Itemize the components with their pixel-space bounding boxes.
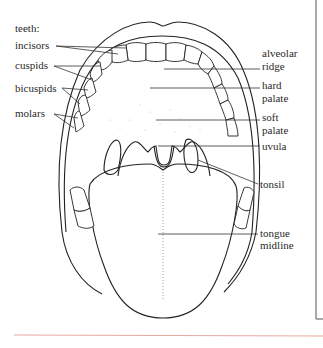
label-molars: molars <box>15 107 45 119</box>
label-hard-palate-line1: hard <box>262 79 282 91</box>
uvula <box>154 146 174 167</box>
label-tonsil: tonsil <box>260 178 284 190</box>
label-alveolar-line2: ridge <box>262 60 285 72</box>
label-soft-palate-line2: palate <box>262 124 288 136</box>
label-tongue-line2: midline <box>260 239 294 251</box>
label-bicuspids: bicuspids <box>15 82 57 94</box>
mouth-diagram: teeth: incisors cuspids bicuspids molars… <box>0 0 323 348</box>
label-uvula: uvula <box>262 140 287 152</box>
right-tonsil <box>184 139 198 172</box>
label-teeth-heading: teeth: <box>15 22 39 34</box>
palate-stipple <box>110 105 201 133</box>
label-tongue-line1: tongue <box>260 227 290 239</box>
bottom-rule <box>14 335 323 336</box>
upper-teeth <box>74 43 238 137</box>
label-soft-palate-line1: soft <box>262 111 279 123</box>
label-alveolar-line1: alveolar <box>262 47 298 59</box>
label-hard-palate-line2: palate <box>262 92 288 104</box>
lower-teeth <box>70 187 254 229</box>
label-incisors: incisors <box>15 39 49 51</box>
outer-lip-outline <box>59 22 260 292</box>
label-cuspids: cuspids <box>15 59 48 71</box>
